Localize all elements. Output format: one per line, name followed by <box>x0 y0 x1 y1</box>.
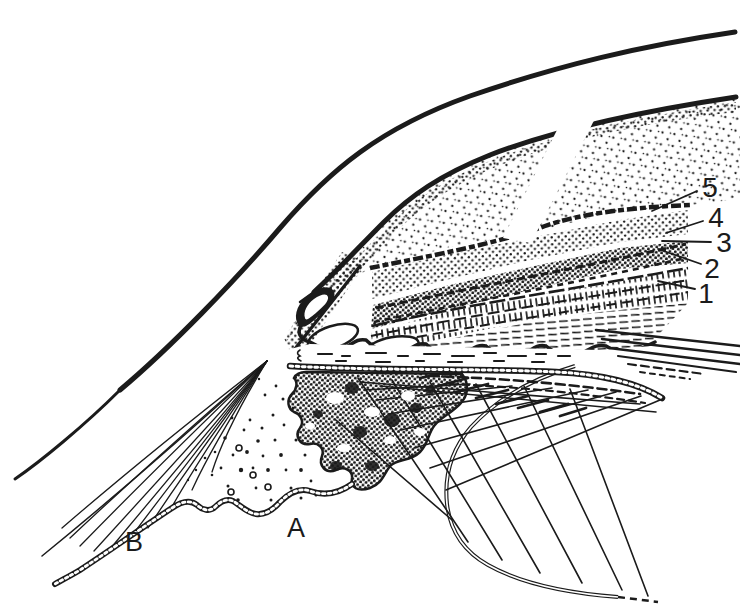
iris-stroma-fan <box>42 361 267 556</box>
callout-5-label: 5 <box>702 172 718 203</box>
callout-1-label: 1 <box>698 278 714 309</box>
letter-b-label: B <box>125 527 143 557</box>
callout-3-leader <box>662 241 711 242</box>
letter-a-label: A <box>287 513 305 543</box>
figure-canvas: 5 4 3 2 1 A B <box>0 0 740 616</box>
iris-pigment-epithelium-line <box>55 484 352 584</box>
anatomical-diagram: 5 4 3 2 1 A B <box>0 0 740 616</box>
iris-root-mass <box>288 372 467 490</box>
